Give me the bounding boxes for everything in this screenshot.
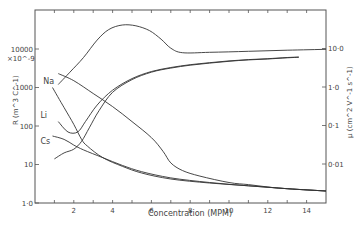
plot-frame	[35, 10, 326, 203]
curve-cs-mobility	[54, 57, 298, 159]
right-y-tick-label: 0·1	[328, 122, 339, 130]
curve-label-cs: Cs	[40, 137, 50, 146]
curve-na-r	[58, 74, 326, 191]
x-tick-label: 2	[72, 207, 76, 215]
right-y-axis-label: μ (cm^2 V^-1 s^-1)	[346, 66, 354, 138]
right-y-axis-ticks: 0·010·11·010·0	[322, 45, 344, 169]
left-y-tick-label: 10	[24, 161, 33, 169]
left-y-tick-label: 1·0	[22, 200, 33, 208]
curve-labels: NaLiCs	[40, 77, 54, 147]
x-tick-label: 14	[302, 207, 311, 215]
chart: 2468101214 1·010100100010000 0·010·11·01…	[0, 0, 359, 225]
left-y-tick-label: 10000	[11, 46, 33, 54]
curve-na-hump	[58, 25, 326, 85]
left-axis-multiplier: ×10^-9	[7, 55, 35, 63]
right-y-tick-label: 1·0	[328, 84, 339, 92]
x-tick-label: 4	[110, 207, 115, 215]
left-y-tick-label: 100	[20, 123, 33, 131]
curve-label-na: Na	[43, 77, 54, 86]
curve-li-mobility	[58, 57, 298, 133]
curve-cs-r	[53, 136, 327, 191]
left-y-axis-label: R (m^3 C^-1)	[12, 75, 20, 125]
data-curves	[53, 25, 327, 191]
x-tick-label: 12	[263, 207, 272, 215]
x-axis-ticks: 2468101214	[54, 10, 311, 215]
curve-label-li: Li	[40, 111, 47, 120]
right-y-tick-label: 10·0	[328, 45, 344, 53]
right-y-tick-label: 0·01	[328, 161, 344, 169]
curve-li-r	[53, 88, 327, 192]
x-axis-label: Concentration (MPM)	[148, 209, 232, 218]
